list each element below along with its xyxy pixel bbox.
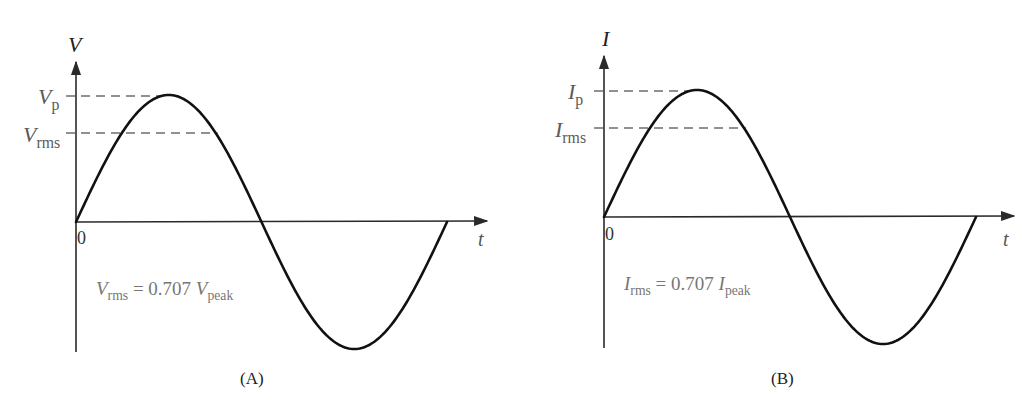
panel-a-voltage (66, 62, 487, 352)
x-axis-label-t-b: t (1003, 229, 1009, 249)
rms-label-vrms: Vrms (23, 124, 60, 150)
rms-label-irms: Irms (555, 119, 586, 145)
panel-b-current (594, 56, 1014, 348)
x-axis-label-t-a: t (478, 229, 484, 249)
equation-irms: Irms = 0.707 Ipeak (624, 274, 751, 297)
caption-b: (B) (771, 370, 794, 387)
peak-label-ip: Ip (568, 81, 583, 107)
sine-wave-diagrams (0, 0, 1022, 413)
x-axis (604, 216, 1014, 217)
caption-a: (A) (240, 370, 264, 387)
y-axis-label-i: I (602, 28, 609, 50)
origin-label-b: 0 (605, 225, 614, 243)
equation-vrms: Vrms = 0.707 Vpeak (96, 279, 233, 302)
origin-label-a: 0 (77, 229, 86, 247)
peak-label-vp: Vp (38, 86, 59, 112)
y-axis-label-v: V (68, 34, 81, 56)
x-axis (76, 221, 487, 222)
